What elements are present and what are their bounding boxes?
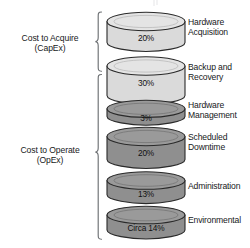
item-label-hardware-management-line1: Hardware <box>188 100 237 110</box>
value-scheduled-downtime: 20% <box>107 148 185 158</box>
item-label-administration-line1: Administration <box>188 181 240 191</box>
value-backup-and-recovery: 30% <box>107 78 185 88</box>
group-label-opex-line1: Cost to Operate <box>6 145 94 155</box>
item-label-environmental-line1: Environmental <box>188 215 241 225</box>
value-administration: 13% <box>107 189 185 199</box>
group-label-opex: Cost to Operate (OpEx) <box>6 145 94 166</box>
item-label-administration: Administration <box>188 181 240 191</box>
scan-artifact-top <box>154 0 157 6</box>
group-label-capex: Cost to Acquire (CapEx) <box>6 33 94 54</box>
value-environmental: Circa 14% <box>107 223 185 233</box>
item-label-scheduled-downtime: Scheduled Downtime <box>188 132 227 153</box>
item-label-hardware-management-line2: Management <box>188 110 237 120</box>
item-label-hardware-acquisition: Hardware Acquisition <box>188 17 228 38</box>
group-label-capex-line1: Cost to Acquire <box>6 33 94 43</box>
bracket-capex <box>95 12 101 71</box>
bracket-opex <box>95 75 101 240</box>
item-label-scheduled-downtime-line1: Scheduled <box>188 132 227 142</box>
item-label-backup-and-recovery-line1: Backup and <box>188 62 232 72</box>
group-label-capex-line2: (CapEx) <box>6 43 94 53</box>
item-label-hardware-acquisition-line2: Acquisition <box>188 27 228 37</box>
group-label-opex-line2: (OpEx) <box>6 155 94 165</box>
item-label-environmental: Environmental <box>188 215 241 225</box>
item-label-backup-and-recovery: Backup and Recovery <box>188 62 232 83</box>
item-label-scheduled-downtime-line2: Downtime <box>188 142 227 152</box>
item-label-hardware-acquisition-line1: Hardware <box>188 17 228 27</box>
value-hardware-management: 3% <box>107 113 185 123</box>
item-label-hardware-management: Hardware Management <box>188 100 237 121</box>
item-label-backup-and-recovery-line2: Recovery <box>188 72 232 82</box>
value-hardware-acquisition: 20% <box>107 33 185 43</box>
